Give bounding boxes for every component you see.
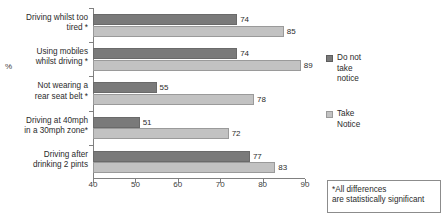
y-axis-tick [89,145,93,146]
category-label-group: Driving whilst tootired *Using mobileswh… [0,8,90,178]
bar-value-label: 78 [257,95,266,104]
x-axis-tick-labels: 405060708090 [93,180,353,194]
footnote-line: are statistically significant [332,195,437,205]
category-label-line: Driving whilst too [0,13,88,23]
bar-do-not-take-notice [93,151,250,162]
x-axis-tick-label: 90 [301,180,310,189]
x-axis-tick-label: 60 [173,180,182,189]
bar-take-notice [93,128,229,139]
bar-take-notice [93,26,284,37]
category-label: Not wearing arear seat belt * [0,81,88,101]
bar-value-label: 74 [240,49,249,58]
footnote-line: *All differences [332,185,437,195]
category-label-line: Using mobiles [0,47,88,57]
x-axis-tick-label: 80 [258,180,267,189]
legend-label-line: notice [337,74,397,85]
x-axis-tick-label: 50 [131,180,140,189]
category-label-line: Not wearing a [0,81,88,91]
category-label: Driving at 40mphin a 30mph zone* [0,116,88,136]
bar-value-label: 83 [278,163,287,172]
y-axis-tick [89,8,93,9]
category-label: Driving whilst tootired * [0,13,88,33]
x-axis-tick-label: 40 [89,180,98,189]
y-axis-tick [89,76,93,77]
bar-value-label: 72 [232,129,241,138]
legend-label-line: take [337,64,397,75]
category-label-line: Driving at 40mph [0,116,88,126]
bar-take-notice [93,60,301,71]
bar-take-notice [93,94,254,105]
footnote-box: *All differencesare statistically signif… [327,180,441,213]
legend-label-line: Take [337,109,397,120]
bar-value-label: 77 [253,152,262,161]
bar-value-label: 85 [287,27,296,36]
bar-do-not-take-notice [93,82,157,93]
bar-take-notice [93,162,275,173]
bar-do-not-take-notice [93,117,140,128]
category-label-line: drinking 2 pints [0,160,88,170]
y-axis-tick [89,111,93,112]
y-axis-tick [89,42,93,43]
bar-value-label: 55 [160,83,169,92]
x-axis-tick-label: 70 [216,180,225,189]
category-label: Using mobileswhilst driving * [0,47,88,67]
bar-value-label: 89 [304,61,313,70]
legend-label-line: Do not [337,53,397,64]
category-label-line: tired * [0,23,88,33]
legend-swatch-icon [326,55,333,62]
bar-do-not-take-notice [93,14,237,25]
x-axis-line [93,178,305,179]
bar-value-label: 51 [143,118,152,127]
category-label-line: Driving after [0,150,88,160]
bar-do-not-take-notice [93,48,237,59]
category-label-line: rear seat belt * [0,92,88,102]
legend-label: Do nottakenotice [337,53,397,85]
plot-area: 74857489557851727783 [93,8,305,179]
category-label: Driving afterdrinking 2 pints [0,150,88,170]
bar-value-label: 74 [240,15,249,24]
legend-label-line: Notice [337,120,397,131]
category-label-line: whilst driving * [0,57,88,67]
legend-label: TakeNotice [337,109,397,130]
chart-container: % Driving whilst tootired *Using mobiles… [0,0,447,221]
legend-swatch-icon [326,111,333,118]
category-label-line: in a 30mph zone* [0,126,88,136]
